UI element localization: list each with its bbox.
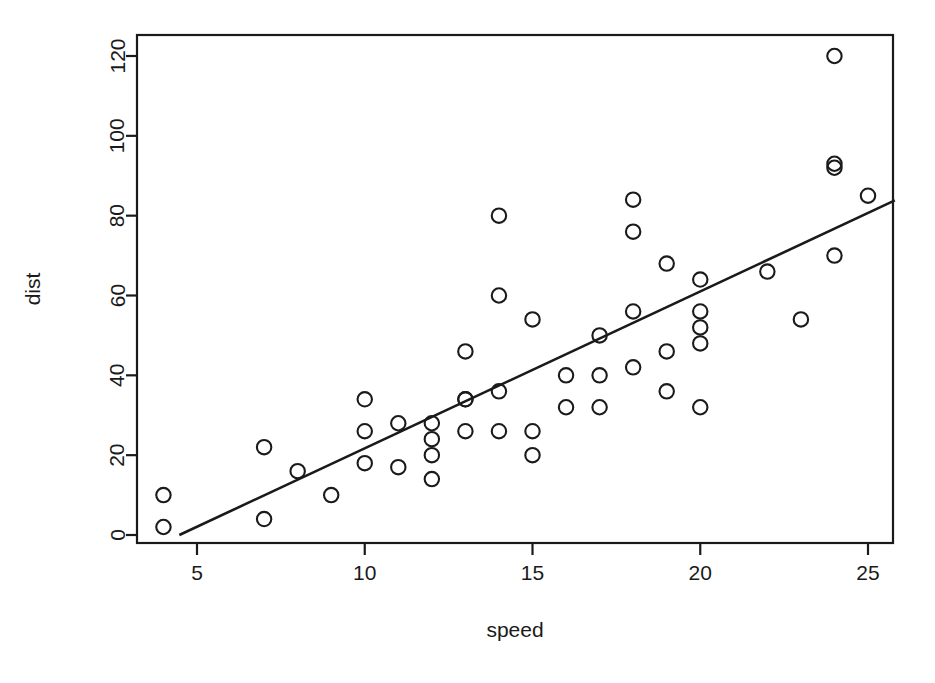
- data-point-marker: [827, 248, 841, 262]
- data-point-marker: [794, 312, 808, 326]
- data-point-marker: [592, 368, 606, 382]
- x-tick-label: 20: [689, 561, 712, 584]
- data-point-marker: [458, 424, 472, 438]
- plot-canvas: 020406080100120 510152025 speed dist: [0, 0, 935, 683]
- regression-line: [179, 200, 895, 535]
- data-point-marker: [693, 400, 707, 414]
- data-point-marker: [693, 272, 707, 286]
- data-point-marker: [525, 448, 539, 462]
- x-tick-label: 5: [191, 561, 203, 584]
- plot-frame: [137, 35, 893, 543]
- y-tick-label: 20: [106, 443, 129, 466]
- y-tick-label: 120: [106, 38, 129, 73]
- x-tick-label: 25: [856, 561, 879, 584]
- data-point-marker: [324, 488, 338, 502]
- data-point-marker: [358, 424, 372, 438]
- y-axis-title: dist: [21, 272, 44, 305]
- regression-fit-line: [179, 200, 895, 535]
- data-point-marker: [693, 304, 707, 318]
- plot-box-border: [137, 35, 893, 543]
- data-point-marker: [760, 264, 774, 278]
- data-point-marker: [458, 344, 472, 358]
- data-point-marker: [492, 424, 506, 438]
- scatter-plot-figure: 020406080100120 510152025 speed dist: [0, 0, 935, 683]
- data-point-marker: [660, 256, 674, 270]
- data-point-marker: [660, 384, 674, 398]
- data-point-marker: [492, 208, 506, 222]
- data-point-marker: [257, 440, 271, 454]
- data-point-marker: [559, 368, 573, 382]
- data-point-marker: [492, 288, 506, 302]
- y-tick-label: 0: [106, 529, 129, 541]
- data-point-marker: [693, 336, 707, 350]
- x-tick-label: 15: [521, 561, 544, 584]
- data-point-marker: [693, 320, 707, 334]
- data-point-marker: [861, 189, 875, 203]
- data-point-marker: [425, 472, 439, 486]
- data-point-marker: [660, 344, 674, 358]
- y-tick-label: 40: [106, 364, 129, 387]
- data-point-marker: [391, 416, 405, 430]
- data-point-marker: [425, 448, 439, 462]
- y-axis: 020406080100120: [106, 38, 138, 540]
- y-tick-label: 60: [106, 284, 129, 307]
- data-point-marker: [626, 224, 640, 238]
- data-point-marker: [290, 464, 304, 478]
- y-tick-label: 80: [106, 204, 129, 227]
- data-point-marker: [626, 193, 640, 207]
- x-axis-title: speed: [486, 618, 543, 641]
- data-point-marker: [391, 460, 405, 474]
- data-point-marker: [525, 312, 539, 326]
- data-point-marker: [626, 304, 640, 318]
- data-point-marker: [156, 488, 170, 502]
- y-tick-label: 100: [106, 118, 129, 153]
- data-point-marker: [156, 520, 170, 534]
- data-point-marker: [827, 49, 841, 63]
- data-point-marker: [525, 424, 539, 438]
- data-point-marker: [626, 360, 640, 374]
- x-axis: 510152025: [191, 543, 880, 584]
- data-point-marker: [358, 456, 372, 470]
- data-points-layer: [156, 49, 875, 534]
- data-point-marker: [358, 392, 372, 406]
- data-point-marker: [257, 512, 271, 526]
- data-point-marker: [592, 400, 606, 414]
- x-tick-label: 10: [353, 561, 376, 584]
- data-point-marker: [425, 432, 439, 446]
- data-point-marker: [559, 400, 573, 414]
